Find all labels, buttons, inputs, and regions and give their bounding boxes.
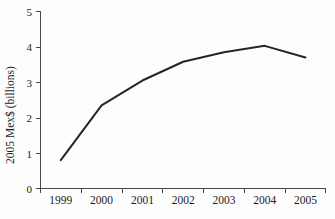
x-tick-label: 2000 bbox=[90, 194, 113, 206]
y-tick-label: 1 bbox=[27, 148, 33, 160]
x-tick-label: 2004 bbox=[253, 194, 276, 206]
y-tick-label: 5 bbox=[27, 6, 33, 18]
line-chart-canvas: 2005 Mex$ (billions) 5 4 3 2 1 0 bbox=[0, 0, 335, 219]
y-tick-label: 0 bbox=[27, 183, 33, 195]
y-tick-label: 3 bbox=[27, 77, 33, 89]
x-tick-label: 2001 bbox=[131, 194, 154, 206]
y-tick-label: 4 bbox=[27, 41, 33, 53]
x-tick-label: 2003 bbox=[212, 194, 235, 206]
x-tick-label: 1999 bbox=[49, 194, 72, 206]
chart-background bbox=[0, 0, 335, 219]
x-tick-label: 2005 bbox=[294, 194, 317, 206]
x-tick-label: 2002 bbox=[172, 194, 195, 206]
y-tick-label: 2 bbox=[27, 112, 33, 124]
chart-figure: 2005 Mex$ (billions) 5 4 3 2 1 0 bbox=[0, 0, 335, 219]
y-axis-title: 2005 Mex$ (billions) bbox=[4, 66, 17, 164]
